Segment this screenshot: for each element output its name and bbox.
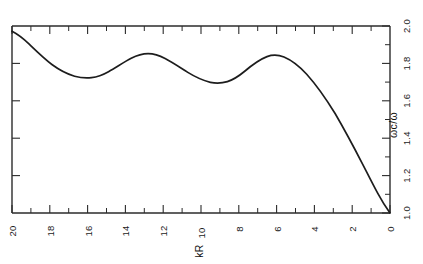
- x-ticklabel-16: 16: [83, 225, 94, 236]
- y-ticklabel-1-6: 1.6: [401, 94, 412, 108]
- dispersion-plot-svg: 20 18 16 14 12 10 8 6 4 2 0 2.0 1.8 1.6 …: [0, 0, 423, 264]
- x-ticklabel-14: 14: [120, 225, 131, 236]
- x-ticklabel-20: 20: [7, 225, 18, 236]
- y-ticklabel-1-0: 1.0: [401, 206, 412, 220]
- top-frame-ticks: [12, 26, 371, 34]
- x-ticklabel-0: 0: [385, 226, 396, 232]
- x-ticklabel-10: 10: [196, 227, 207, 238]
- x-ticklabel-2: 2: [347, 226, 358, 232]
- x-axis-label: kR: [193, 244, 205, 258]
- x-ticklabel-12: 12: [158, 225, 169, 236]
- x-tick-labels: 20 18 16 14 12 10 8 6 4 2 0: [7, 225, 396, 238]
- x-ticklabel-4: 4: [309, 226, 320, 232]
- y-ticklabel-1-4: 1.4: [401, 131, 412, 145]
- y-ticklabel-1-2: 1.2: [401, 169, 412, 183]
- y-axis-label: ωc/ω: [387, 112, 399, 138]
- chart-figure: 20 18 16 14 12 10 8 6 4 2 0 2.0 1.8 1.6 …: [0, 0, 423, 264]
- dispersion-curve: [12, 31, 390, 213]
- y-axis-label-text: ωc/ω: [387, 112, 399, 138]
- y-ticklabel-2-0: 2.0: [401, 19, 412, 33]
- y-ticklabel-1-8: 1.8: [401, 56, 412, 70]
- y-tick-labels: 2.0 1.8 1.6 1.4 1.2 1.0: [401, 19, 412, 220]
- plot-frame: [12, 26, 390, 213]
- x-ticklabel-18: 18: [45, 225, 56, 236]
- left-frame-ticks: [12, 63, 20, 175]
- x-axis-ticks: [12, 205, 390, 213]
- x-ticklabel-8: 8: [234, 226, 245, 232]
- x-ticklabel-6: 6: [272, 226, 283, 232]
